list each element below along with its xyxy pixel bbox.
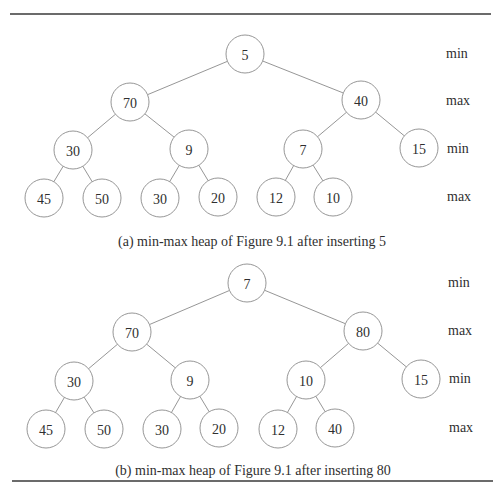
tree-edge [147, 344, 176, 368]
node-value: 15 [414, 373, 428, 388]
caption-a: (a) min-max heap of Figure 9.1 after ins… [118, 234, 386, 250]
node-value: 70 [125, 326, 139, 341]
tree-edge [145, 114, 174, 137]
tree-nodes: 770803091015455030201240 [27, 264, 440, 448]
tree-edge [376, 112, 405, 136]
level-label-max: max [448, 323, 472, 338]
tree-edge [200, 396, 209, 411]
tree-edge [84, 397, 94, 413]
heap-node: 15 [400, 129, 438, 167]
tree-edge [89, 344, 118, 368]
node-value: 50 [97, 423, 111, 438]
node-value: 40 [354, 94, 368, 109]
node-value: 9 [187, 374, 194, 389]
tree-edge [378, 343, 407, 367]
tree-edge [56, 397, 65, 412]
node-value: 12 [271, 423, 285, 438]
tree-edge [149, 290, 229, 324]
heap-node: 12 [259, 410, 297, 448]
heap-node: 5 [226, 35, 264, 73]
level-label-min: min [449, 371, 471, 386]
level-label-max: max [447, 189, 471, 204]
heap-node: 45 [25, 179, 63, 217]
tree-edge [265, 290, 346, 323]
tree-edge [318, 112, 347, 136]
heap-node: 40 [316, 409, 354, 447]
level-label-min: min [448, 275, 470, 290]
node-value: 45 [37, 192, 51, 207]
heap-node: 80 [344, 312, 382, 350]
level-labels: minmaxminmax [446, 46, 471, 204]
heap-node: 10 [314, 178, 352, 216]
node-value: 5 [242, 48, 249, 63]
heap-node: 15 [402, 360, 440, 398]
heap-node: 20 [199, 178, 237, 216]
heap-node: 30 [143, 410, 181, 448]
node-value: 30 [153, 192, 167, 207]
min-max-heap-figure: 57040309715455030201210 minmaxminmax (a)… [0, 0, 503, 493]
node-value: 20 [212, 422, 226, 437]
node-value: 70 [123, 96, 137, 111]
tree-edge [148, 61, 228, 94]
node-value: 50 [95, 192, 109, 207]
caption-b: (b) min-max heap of Figure 9.1 after ins… [115, 463, 391, 479]
node-value: 30 [66, 144, 80, 159]
node-value: 40 [328, 422, 342, 437]
tree-edge [316, 396, 325, 411]
panel-b-heap-after-inserting-80: 770803091015455030201240 minmaxminmax (b… [27, 264, 473, 479]
panel-a-heap-after-inserting-5: 57040309715455030201210 minmaxminmax (a)… [25, 35, 471, 250]
tree-edge [287, 396, 296, 412]
level-labels: minmaxminmax [448, 275, 473, 435]
tree-edge [313, 165, 323, 181]
heap-node: 45 [27, 410, 65, 448]
heap-node: 30 [141, 179, 179, 217]
node-value: 20 [211, 191, 225, 206]
heap-node: 70 [113, 313, 151, 351]
tree-edges [56, 290, 407, 413]
tree-edge [88, 114, 116, 138]
heap-node: 50 [83, 179, 121, 217]
heap-node: 12 [257, 178, 295, 216]
tree-edge [170, 165, 180, 181]
tree-edge [199, 165, 208, 180]
tree-edge [263, 61, 344, 93]
node-value: 9 [186, 143, 193, 158]
heap-node: 7 [284, 130, 322, 168]
node-value: 12 [269, 191, 283, 206]
tree-edge [83, 166, 92, 181]
tree-nodes: 57040309715455030201210 [25, 35, 438, 217]
node-value: 80 [356, 325, 370, 340]
heap-node: 7 [228, 264, 266, 302]
heap-node: 9 [170, 130, 208, 168]
node-value: 10 [326, 191, 340, 206]
heap-node: 30 [54, 131, 92, 169]
heap-node: 70 [111, 83, 149, 121]
node-value: 7 [244, 277, 251, 292]
tree-edges [54, 61, 405, 182]
heap-node: 10 [287, 361, 325, 399]
level-label-min: min [447, 141, 469, 156]
tree-edge [54, 166, 63, 181]
heap-node: 40 [342, 81, 380, 119]
tree-edge [320, 343, 348, 367]
node-value: 45 [39, 423, 53, 438]
level-label-max: max [449, 420, 473, 435]
heap-node: 50 [85, 410, 123, 448]
level-label-max: max [446, 93, 470, 108]
node-value: 30 [67, 375, 81, 390]
node-value: 15 [412, 142, 426, 157]
node-value: 10 [299, 374, 313, 389]
tree-edge [285, 166, 293, 181]
heap-node: 20 [200, 409, 238, 447]
heap-node: 30 [55, 362, 93, 400]
tree-edge [171, 396, 180, 412]
node-value: 30 [155, 423, 169, 438]
level-label-min: min [446, 46, 468, 61]
heap-node: 9 [171, 361, 209, 399]
node-value: 7 [300, 143, 307, 158]
